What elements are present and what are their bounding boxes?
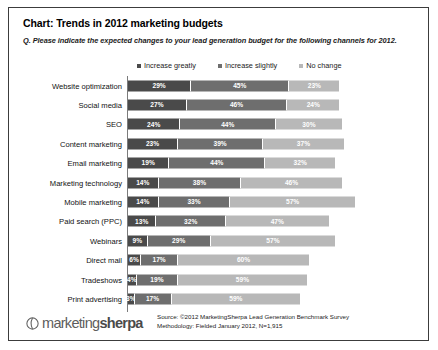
bar-segment-increase-greatly: 13% xyxy=(128,216,156,227)
legend-swatch-icon xyxy=(218,64,222,68)
category-label: Tradeshows xyxy=(81,275,122,284)
category-label: Mobile marketing xyxy=(64,198,122,207)
bar-segment-increase-slightly: 32% xyxy=(156,216,226,227)
category-label: Social media xyxy=(79,101,122,110)
stacked-bar: 24%44%30% xyxy=(128,119,342,130)
bar-value-label: 14% xyxy=(136,179,149,186)
chart-row: Direct mail6%17%60% xyxy=(9,251,430,270)
bar-segment-increase-greatly: 9% xyxy=(128,235,148,246)
bar-value-label: 9% xyxy=(133,238,143,245)
bar-value-label: 17% xyxy=(146,296,159,303)
plot-area: Website optimization29%45%23%Social medi… xyxy=(9,76,430,316)
stacked-bar: 19%44%32% xyxy=(128,158,335,169)
bar-value-label: 47% xyxy=(271,218,284,225)
bar-segment-no-change: 59% xyxy=(178,274,307,285)
bar-value-label: 13% xyxy=(135,218,148,225)
stacked-bar: 14%33%57% xyxy=(128,197,355,208)
bar-segment-no-change: 46% xyxy=(241,177,341,188)
legend-item: Increase slightly xyxy=(218,61,277,70)
logo-wordmark: marketingsherpa xyxy=(42,316,143,331)
logo-word-sherpa: sherpa xyxy=(99,315,142,331)
bar-segment-increase-slightly: 17% xyxy=(141,255,178,266)
bar-value-label: 14% xyxy=(136,199,149,206)
logo-word-marketing: marketing xyxy=(42,315,99,331)
bar-value-label: 57% xyxy=(266,238,279,245)
bar-value-label: 27% xyxy=(150,102,163,109)
bar-value-label: 57% xyxy=(286,199,299,206)
category-label: Marketing technology xyxy=(50,178,122,187)
bar-value-label: 59% xyxy=(236,276,249,283)
stacked-bar: 29%45%23% xyxy=(128,80,339,91)
bar-segment-no-change: 57% xyxy=(230,197,354,208)
stacked-bar: 9%29%57% xyxy=(128,235,335,246)
bar-value-label: 19% xyxy=(150,276,163,283)
bar-segment-increase-greatly: 23% xyxy=(128,138,178,149)
legend-swatch-icon xyxy=(299,64,303,68)
category-label: Email marketing xyxy=(68,159,122,168)
sherpa-circle-icon xyxy=(25,316,40,331)
bar-value-label: 38% xyxy=(193,179,206,186)
category-label: SEO xyxy=(106,120,122,129)
bar-value-label: 4% xyxy=(127,276,137,283)
bar-value-label: 37% xyxy=(297,141,310,148)
bar-value-label: 33% xyxy=(187,199,200,206)
bar-value-label: 60% xyxy=(237,257,250,264)
bar-segment-increase-slightly: 19% xyxy=(137,274,178,285)
chart-row: Content marketing23%39%37% xyxy=(9,134,430,153)
bar-value-label: 6% xyxy=(129,257,139,264)
bar-segment-no-change: 32% xyxy=(265,158,335,169)
bar-segment-no-change: 24% xyxy=(287,100,339,111)
bar-segment-increase-slightly: 29% xyxy=(148,235,211,246)
chart-row: Webinars9%29%57% xyxy=(9,231,430,250)
bar-segment-increase-greatly: 14% xyxy=(128,177,159,188)
chart-title: Chart: Trends in 2012 marketing budgets xyxy=(23,17,223,29)
chart-legend: Increase greatlyIncrease slightlyNo chan… xyxy=(137,61,364,70)
category-label: Paid search (PPC) xyxy=(59,217,122,226)
bar-segment-increase-slightly: 45% xyxy=(191,80,289,91)
bar-value-label: 29% xyxy=(172,238,185,245)
bar-value-label: 39% xyxy=(214,141,227,148)
bar-segment-increase-greatly: 6% xyxy=(128,255,141,266)
bar-segment-increase-greatly: 4% xyxy=(128,274,137,285)
category-label: Website optimization xyxy=(52,81,122,90)
bar-value-label: 46% xyxy=(230,102,243,109)
bar-segment-increase-slightly: 39% xyxy=(178,138,263,149)
bar-value-label: 29% xyxy=(153,82,166,89)
bar-segment-no-change: 30% xyxy=(276,119,341,130)
category-label: Content marketing xyxy=(60,139,122,148)
bar-value-label: 30% xyxy=(302,121,315,128)
bar-value-label: 17% xyxy=(153,257,166,264)
stacked-bar: 6%17%60% xyxy=(128,255,309,266)
bar-value-label: 24% xyxy=(307,102,320,109)
chart-row: Marketing technology14%38%46% xyxy=(9,173,430,192)
bar-value-label: 19% xyxy=(142,160,155,167)
bar-value-label: 32% xyxy=(294,160,307,167)
bar-value-label: 46% xyxy=(285,179,298,186)
source-line-1: Source: ©2012 MarketingSherpa Lead Gener… xyxy=(157,312,349,322)
chart-row: Paid search (PPC)13%32%47% xyxy=(9,212,430,231)
chart-row: Website optimization29%45%23% xyxy=(9,76,430,95)
bar-segment-increase-slightly: 17% xyxy=(135,294,172,305)
bar-segment-no-change: 57% xyxy=(211,235,335,246)
bar-value-label: 23% xyxy=(146,141,159,148)
bar-segment-increase-greatly: 19% xyxy=(128,158,169,169)
bar-segment-no-change: 59% xyxy=(172,294,301,305)
chart-row: Tradeshows4%19%59% xyxy=(9,270,430,289)
bar-segment-increase-slightly: 38% xyxy=(159,177,242,188)
bar-segment-increase-slightly: 33% xyxy=(159,197,231,208)
legend-item: No change xyxy=(299,61,341,70)
stacked-bar: 4%19%59% xyxy=(128,274,307,285)
bar-segment-increase-greatly: 27% xyxy=(128,100,187,111)
legend-label: Increase greatly xyxy=(144,61,196,70)
legend-label: No change xyxy=(306,61,341,70)
category-label: Print advertising xyxy=(68,295,122,304)
marketingsherpa-logo: marketingsherpa xyxy=(25,312,143,334)
bar-segment-increase-greatly: 14% xyxy=(128,197,159,208)
stacked-bar: 13%32%47% xyxy=(128,216,329,227)
category-label: Webinars xyxy=(90,236,122,245)
stacked-bar: 14%38%46% xyxy=(128,177,342,188)
bar-value-label: 45% xyxy=(233,82,246,89)
legend-label: Increase slightly xyxy=(225,61,277,70)
chart-question: Q. Please indicate the expected changes … xyxy=(23,36,416,45)
category-label: Direct mail xyxy=(86,256,122,265)
